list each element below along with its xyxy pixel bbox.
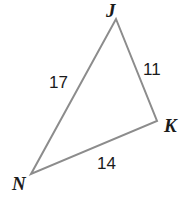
- triangle-figure: J K N 17 11 14: [0, 0, 193, 203]
- vertex-label-j: J: [106, 1, 116, 20]
- triangle-shape: [31, 19, 157, 174]
- side-length-label-nk: 14: [97, 155, 116, 172]
- side-length-label-jk: 11: [143, 61, 161, 78]
- vertex-label-k: K: [164, 116, 177, 135]
- side-length-label-jn: 17: [49, 74, 68, 91]
- vertex-label-n: N: [12, 174, 26, 193]
